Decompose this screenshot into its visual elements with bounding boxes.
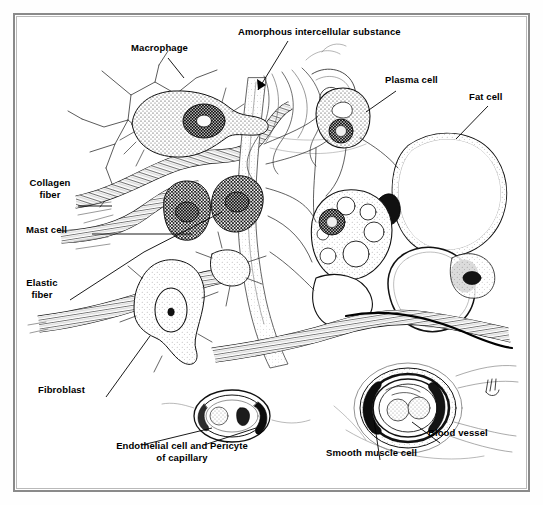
histology-drawing <box>16 16 527 489</box>
label-smooth-muscle-cell: Smooth muscle cell <box>326 447 417 459</box>
label-blood-vessel: Blood vessel <box>428 427 488 439</box>
label-fibroblast: Fibroblast <box>38 384 85 396</box>
label-amorphous-intercellular-substance: Amorphous intercellular substance <box>238 26 401 38</box>
label-collagen-fiber: Collagen fiber <box>18 177 82 200</box>
label-fat-cell: Fat cell <box>469 91 503 103</box>
figure-page: Macrophage Amorphous intercellular subst… <box>0 0 543 505</box>
label-elastic-fiber: Elastic fiber <box>12 277 72 300</box>
label-endothelial-cell-and-pericyte: Endothelial cell and Pericyte of capilla… <box>96 440 268 463</box>
label-macrophage: Macrophage <box>131 42 188 54</box>
label-plasma-cell: Plasma cell <box>385 74 438 86</box>
label-mast-cell: Mast cell <box>26 224 67 236</box>
